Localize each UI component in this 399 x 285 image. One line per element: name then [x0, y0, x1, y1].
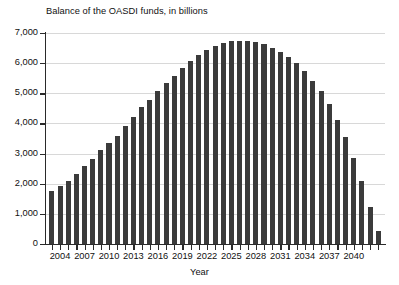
y-axis-tick	[40, 33, 45, 34]
x-axis-tick	[280, 245, 281, 250]
bar	[164, 83, 169, 244]
y-axis-tick-label: 1,000	[0, 208, 38, 218]
x-axis-tick	[223, 245, 224, 250]
bar	[147, 100, 152, 244]
bar	[343, 137, 348, 244]
x-axis-tick	[231, 245, 232, 250]
x-axis-tick-label: 2037	[319, 251, 340, 261]
x-axis-label-group: 2004200720102013201620192022202520282031…	[0, 251, 399, 265]
bar	[172, 76, 177, 244]
x-axis-tick	[166, 245, 167, 250]
x-axis-tick	[272, 245, 273, 250]
x-axis-tick	[60, 245, 61, 250]
x-axis-tick	[321, 245, 322, 250]
x-axis-tick	[305, 245, 306, 250]
y-axis-label-group: 01,0002,0003,0004,0005,0006,0007,000	[0, 0, 38, 285]
bar	[74, 174, 79, 244]
x-axis-tick	[117, 245, 118, 250]
bar	[237, 41, 242, 244]
bar	[278, 52, 283, 244]
x-axis-tick-label: 2007	[74, 251, 95, 261]
x-axis-tick	[158, 245, 159, 250]
bar	[376, 231, 381, 244]
bar	[139, 107, 144, 244]
y-axis-tick	[40, 123, 45, 124]
x-axis-tick	[182, 245, 183, 250]
bar	[319, 91, 324, 244]
x-axis-tick	[313, 245, 314, 250]
y-axis-tick-label: 2,000	[0, 178, 38, 188]
x-axis-tick	[240, 245, 241, 250]
bar	[245, 41, 250, 244]
x-axis-tick-label: 2022	[197, 251, 218, 261]
x-axis-tick	[256, 245, 257, 250]
x-axis-tick	[248, 245, 249, 250]
y-axis-tick	[40, 63, 45, 64]
x-axis-tick	[288, 245, 289, 250]
x-axis-tick	[215, 245, 216, 250]
x-axis-tick	[346, 245, 347, 250]
bar	[302, 71, 307, 244]
x-axis-tick-label: 2019	[172, 251, 193, 261]
y-axis-tick	[40, 214, 45, 215]
bar	[286, 57, 291, 244]
x-axis-tick	[370, 245, 371, 250]
bar	[294, 63, 299, 244]
chart-figure: Balance of the OASDI funds, in billions …	[0, 0, 399, 285]
bar	[155, 91, 160, 244]
x-axis-tick	[93, 245, 94, 250]
x-axis-tick-label: 2013	[123, 251, 144, 261]
x-axis-tick	[133, 245, 134, 250]
bar	[131, 117, 136, 245]
bar	[310, 81, 315, 244]
y-axis-tick-label: 3,000	[0, 148, 38, 158]
gridline	[46, 33, 385, 34]
x-axis-tick	[109, 245, 110, 250]
x-axis-tick	[85, 245, 86, 250]
bar	[229, 41, 234, 244]
bar	[82, 166, 87, 244]
bar	[115, 136, 120, 245]
bar	[90, 159, 95, 244]
x-axis-tick	[378, 245, 379, 250]
x-axis-tick	[264, 245, 265, 250]
x-axis-tick-label: 2004	[50, 251, 71, 261]
y-axis-line	[45, 32, 46, 245]
x-axis-tick	[174, 245, 175, 250]
chart-title: Balance of the OASDI funds, in billions	[46, 6, 208, 16]
x-axis-tick	[52, 245, 53, 250]
bar	[66, 181, 71, 244]
y-axis-tick-label: 4,000	[0, 117, 38, 127]
bar	[221, 43, 226, 244]
y-axis-tick-label: 7,000	[0, 27, 38, 37]
y-axis-tick-label: 5,000	[0, 87, 38, 97]
x-axis-tick-group	[0, 244, 399, 250]
bar	[204, 50, 209, 244]
y-axis-tick	[40, 184, 45, 185]
bar	[253, 42, 258, 244]
x-axis-tick	[191, 245, 192, 250]
bar	[196, 55, 201, 244]
x-axis-tick-label: 2025	[221, 251, 242, 261]
x-axis-tick-label: 2028	[246, 251, 267, 261]
bar	[106, 143, 111, 244]
bar	[213, 46, 218, 244]
bar	[180, 68, 185, 244]
bar	[359, 181, 364, 244]
bar	[49, 191, 54, 244]
bar	[368, 207, 373, 244]
x-axis-tick	[354, 245, 355, 250]
x-axis-tick-label: 2031	[270, 251, 291, 261]
x-axis-tick-label: 2010	[99, 251, 120, 261]
x-axis-tick-label: 2034	[294, 251, 315, 261]
x-axis-tick	[101, 245, 102, 250]
y-axis-tick-label: 6,000	[0, 57, 38, 67]
y-axis-tick	[40, 93, 45, 94]
x-axis-tick	[199, 245, 200, 250]
x-axis-tick	[150, 245, 151, 250]
x-axis-tick	[337, 245, 338, 250]
bar	[123, 126, 128, 244]
x-axis-tick	[362, 245, 363, 250]
x-axis-tick	[329, 245, 330, 250]
x-axis-tick	[142, 245, 143, 250]
